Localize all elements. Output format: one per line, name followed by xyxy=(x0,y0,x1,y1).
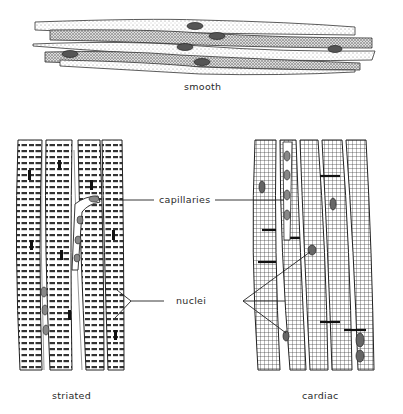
label-cardiac: cardiac xyxy=(300,390,341,401)
muscle-diagram xyxy=(0,0,403,414)
smooth-nucleus xyxy=(194,59,210,66)
label-nuclei: nuclei xyxy=(174,295,208,306)
smooth-nucleus xyxy=(187,23,203,30)
smooth-nucleus xyxy=(209,33,225,40)
cardiac-muscle-illustration xyxy=(253,140,374,370)
striated-muscle-illustration xyxy=(16,140,124,370)
smooth-muscle-illustration xyxy=(33,19,375,74)
callout-lines xyxy=(113,200,310,333)
label-smooth: smooth xyxy=(182,81,223,92)
smooth-nucleus xyxy=(328,46,342,53)
label-striated: striated xyxy=(50,390,93,401)
smooth-nucleus xyxy=(177,44,193,51)
smooth-nucleus xyxy=(62,51,78,58)
label-capillaries: capillaries xyxy=(157,194,212,205)
